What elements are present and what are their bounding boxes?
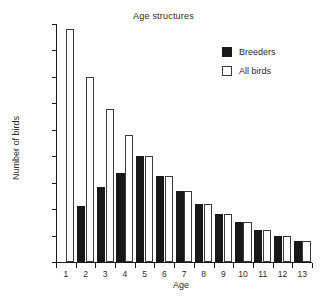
bar-all-birds-age-12 [283,236,291,262]
y-tick [52,156,57,157]
bar-all-birds-age-11 [263,230,271,262]
y-tick [52,24,57,25]
x-tick [273,263,274,268]
y-tick [52,183,57,184]
bar-breeders-age-12 [274,236,282,262]
x-tick-label: 13 [292,270,312,279]
x-tick [95,263,96,268]
bar-breeders-age-5 [136,156,144,262]
x-tick-label: 8 [194,270,214,279]
bar-all-birds-age-4 [125,135,133,262]
x-tick-label: 2 [76,270,96,279]
legend-label-breeders: Breeders [239,47,276,57]
bar-breeders-age-2 [77,206,85,262]
bar-all-birds-age-6 [165,176,173,262]
x-tick [214,263,215,268]
bar-all-birds-age-10 [243,222,251,262]
bar-breeders-age-3 [97,187,105,262]
x-tick [292,263,293,268]
chart-title: Age structures [0,11,327,21]
x-tick [194,263,195,268]
bar-breeders-age-11 [254,230,262,262]
bar-all-birds-age-3 [106,109,114,262]
y-tick [52,50,57,51]
y-tick [52,130,57,131]
x-tick-label: 3 [95,270,115,279]
bar-all-birds-age-9 [224,214,232,262]
x-tick [56,263,57,268]
bar-breeders-age-7 [176,191,184,262]
bar-all-birds-age-2 [86,77,94,262]
legend-swatch-breeders-icon [222,47,232,57]
x-tick-label: 9 [213,270,233,279]
bar-all-birds-age-13 [302,241,310,262]
chart-legend: Breeders All birds [222,44,276,82]
x-tick [154,263,155,268]
bar-breeders-age-4 [116,173,124,262]
bar-all-birds-age-1 [66,29,74,262]
x-tick [312,263,313,268]
x-tick-label: 5 [135,270,155,279]
x-tick-label: 12 [272,270,292,279]
bar-all-birds-age-7 [184,191,192,262]
y-tick [52,236,57,237]
x-tick [135,263,136,268]
y-tick [52,103,57,104]
bar-breeders-age-13 [294,241,302,262]
bar-breeders-age-8 [195,204,203,262]
y-axis-label: Number of birds [11,88,21,208]
bar-breeders-age-10 [235,222,243,262]
bar-all-birds-age-8 [204,204,212,262]
x-tick [253,263,254,268]
bar-breeders-age-6 [156,176,164,262]
x-tick-label: 1 [56,270,76,279]
x-tick-label: 7 [174,270,194,279]
legend-item-breeders: Breeders [222,44,276,60]
x-tick [174,263,175,268]
y-tick [52,209,57,210]
chart-figure: Age structures Number of birds Age 02040… [0,0,327,297]
x-tick [233,263,234,268]
x-axis-label: Age [46,280,316,290]
legend-label-all-birds: All birds [239,66,271,76]
x-tick-label: 6 [154,270,174,279]
x-tick [76,263,77,268]
y-axis-line [56,24,57,263]
y-tick [52,77,57,78]
bar-all-birds-age-5 [145,156,153,262]
legend-item-all-birds: All birds [222,63,276,79]
x-tick-label: 10 [233,270,253,279]
bar-breeders-age-9 [215,214,223,262]
x-tick [115,263,116,268]
x-tick-label: 4 [115,270,135,279]
x-tick-label: 11 [253,270,273,279]
legend-swatch-all-birds-icon [222,66,232,76]
